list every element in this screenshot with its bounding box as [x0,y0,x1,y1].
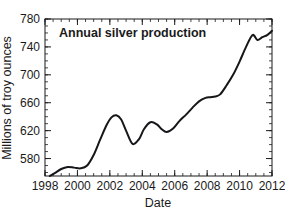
x-tick-label: 2008 [194,179,221,193]
x-tick-label: 2004 [129,179,156,193]
y-axis-tick-labels: 580620660700740780 [20,12,40,166]
x-tick-label: 2000 [64,179,91,193]
x-tick-label: 2010 [226,179,253,193]
y-tick-label: 740 [20,40,40,54]
y-axis-title: Millions of troy ounces [0,36,14,160]
y-tick-label: 700 [20,68,40,82]
y-tick-label: 580 [20,152,40,166]
x-tick-label: 2012 [259,179,285,193]
y-tick-label: 660 [20,96,40,110]
x-tick-label: 2006 [161,179,188,193]
y-tick-label: 780 [20,12,40,26]
x-tick-label: 1998 [32,179,59,193]
line-chart: 19982000200220042006200820102012 5806206… [0,0,285,214]
chart-figure: 19982000200220042006200820102012 5806206… [0,0,285,214]
chart-title: Annual silver production [59,26,206,40]
x-axis-title: Date [145,196,171,210]
x-tick-label: 2002 [97,179,124,193]
x-axis-tick-labels: 19982000200220042006200820102012 [32,179,285,193]
y-tick-label: 620 [20,124,40,138]
plot-background [45,19,272,176]
